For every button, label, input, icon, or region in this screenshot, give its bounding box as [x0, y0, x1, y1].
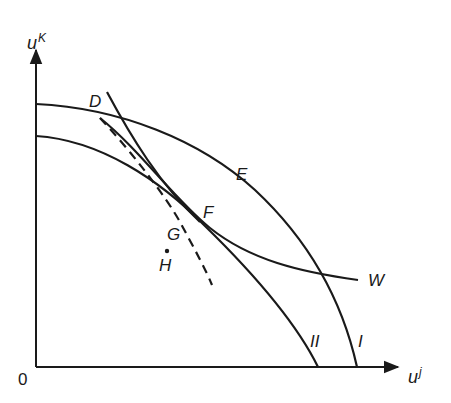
point-label-H: H [159, 257, 171, 274]
y-axis-label-base: u [27, 33, 37, 53]
origin-label: 0 [18, 371, 27, 388]
point-label-D: D [89, 93, 101, 110]
point-H-dot [165, 249, 169, 253]
point-label-F: F [203, 204, 213, 221]
curve-label-W: W [368, 272, 384, 289]
point-label-G: G [167, 226, 180, 243]
curve-label-I: I [358, 333, 363, 350]
frontier-curve-I [36, 104, 357, 367]
steep-solid-line [107, 92, 200, 222]
frontier-curve-II [36, 136, 318, 367]
diagram-canvas [0, 0, 451, 403]
x-axis-label-base: u [408, 367, 418, 387]
x-axis-label-superscript: j [419, 365, 422, 379]
x-axis-label: uj [408, 368, 422, 386]
welfare-contour-W [100, 118, 358, 280]
y-axis-label: uK [27, 34, 46, 52]
point-label-E: E [236, 166, 247, 183]
curve-label-II: II [310, 333, 319, 350]
y-axis-label-superscript: K [38, 31, 46, 45]
dashed-line-DG [100, 118, 212, 285]
